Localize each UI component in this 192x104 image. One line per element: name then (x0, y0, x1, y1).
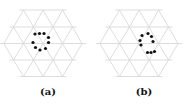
particle-dot (33, 32, 36, 35)
lattice-lines (0, 10, 86, 77)
particle-dot (149, 51, 152, 54)
particle-dot (38, 32, 41, 35)
lattice-lines (96, 10, 182, 77)
particle-dot (47, 41, 50, 44)
caption-b: (b) (96, 86, 192, 97)
particle-dot (38, 48, 41, 51)
particle-dot (146, 51, 149, 54)
particle-dot (47, 36, 50, 39)
particle-dot (42, 32, 45, 35)
particle-dot (31, 41, 34, 44)
panel-a: (a) (0, 0, 96, 104)
particle-dot (140, 34, 143, 37)
particle-dot (44, 47, 47, 50)
particle-dot (151, 40, 154, 43)
particle-dot (34, 46, 37, 49)
particle-dot (153, 50, 156, 53)
particle-dot (146, 32, 149, 35)
particle-dot (139, 43, 142, 46)
caption-a: (a) (0, 86, 96, 97)
particle-dot (150, 35, 153, 38)
particle-dot (138, 39, 141, 42)
particle-dots (31, 32, 50, 52)
panel-b: (b) (96, 0, 192, 104)
